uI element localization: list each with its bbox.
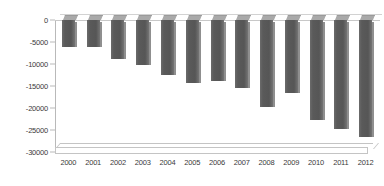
bar-front-face (111, 20, 124, 59)
bar-front-face (211, 20, 224, 81)
bar-side-face (298, 22, 300, 93)
x-tick-label: 2009 (278, 158, 304, 167)
bar-side-face (273, 22, 275, 107)
bar-front-face (260, 20, 273, 107)
bar-side-face (372, 22, 374, 137)
x-tick-label: 2005 (179, 158, 205, 167)
x-tick-label: 2011 (328, 158, 354, 167)
bar-side-face (124, 22, 126, 59)
y-tick-label: -30000 (26, 148, 48, 157)
y-tick-mark (50, 130, 55, 131)
x-axis-labels: 2000200120022003200420052006200720082009… (56, 158, 378, 174)
bar-side-face (199, 22, 201, 83)
y-tick-label: -10000 (26, 60, 48, 69)
y-tick-label: -25000 (26, 126, 48, 135)
bar-side-face (75, 22, 77, 47)
y-tick-label: 0 (44, 16, 48, 25)
bar-side-face (248, 22, 250, 88)
y-axis-labels: 0-5000-10000-15000-20000-25000-30000 (0, 0, 54, 186)
bar-front-face (186, 20, 199, 83)
y-tick-mark (50, 86, 55, 87)
bar-side-face (100, 22, 102, 47)
x-tick-label: 2000 (55, 158, 81, 167)
y-tick-mark (50, 20, 55, 21)
x-tick-label: 2007 (229, 158, 255, 167)
bar-chart: 0-5000-10000-15000-20000-25000-30000 200… (0, 0, 384, 186)
y-tick-mark (50, 42, 55, 43)
bar-side-face (224, 22, 226, 81)
bar-side-face (323, 22, 325, 120)
bar-front-face (334, 20, 347, 129)
bar-front-face (87, 20, 100, 47)
bar-front-face (310, 20, 323, 120)
bar-side-face (174, 22, 176, 75)
x-tick-label: 2003 (130, 158, 156, 167)
x-tick-label: 2012 (353, 158, 379, 167)
y-tick-label: -15000 (26, 82, 48, 91)
y-tick-mark (50, 108, 55, 109)
bar-front-face (235, 20, 248, 88)
x-tick-label: 2010 (303, 158, 329, 167)
bars-layer (56, 20, 378, 152)
bar-front-face (62, 20, 75, 47)
x-tick-label: 2001 (80, 158, 106, 167)
bar-front-face (359, 20, 372, 137)
bar-side-face (149, 22, 151, 65)
bar-front-face (285, 20, 298, 93)
x-tick-label: 2006 (204, 158, 230, 167)
y-tick-mark (50, 152, 55, 153)
bar-side-face (347, 22, 349, 129)
y-tick-label: -5000 (30, 38, 48, 47)
bar-front-face (136, 20, 149, 65)
y-tick-mark (50, 64, 55, 65)
x-tick-label: 2004 (154, 158, 180, 167)
bar-front-face (161, 20, 174, 75)
y-tick-label: -20000 (26, 104, 48, 113)
x-tick-label: 2008 (254, 158, 280, 167)
x-tick-label: 2002 (105, 158, 131, 167)
